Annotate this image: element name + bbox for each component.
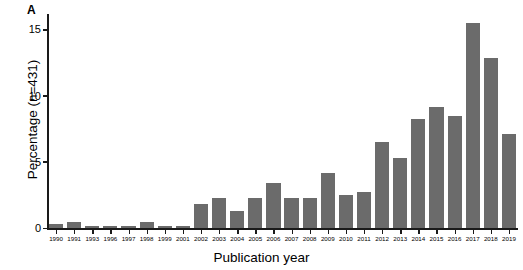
bar — [429, 107, 443, 229]
bar — [49, 224, 63, 229]
x-tick-mark — [455, 230, 456, 234]
bar — [266, 183, 280, 229]
bar — [85, 226, 99, 229]
x-tick-label: 2016 — [448, 236, 462, 242]
x-tick-mark — [219, 230, 220, 234]
x-tick-mark — [364, 230, 365, 234]
bar — [284, 198, 298, 228]
x-tick-label: 1996 — [104, 236, 118, 242]
x-tick-label: 2017 — [466, 236, 480, 242]
x-tick-label: 2001 — [176, 236, 190, 242]
x-tick-mark — [346, 230, 347, 234]
bar — [67, 222, 81, 228]
y-tick-label: 10 — [15, 91, 41, 102]
x-tick-mark — [92, 230, 93, 234]
y-tick-label: 0 — [15, 223, 41, 234]
x-tick-mark — [237, 230, 238, 234]
bar — [375, 142, 389, 228]
bar — [248, 198, 262, 228]
x-tick-mark — [129, 230, 130, 234]
x-tick-label: 2010 — [339, 236, 353, 242]
bar — [230, 211, 244, 229]
x-axis-title: Publication year — [0, 250, 523, 265]
x-tick-label: 1991 — [67, 236, 81, 242]
bar — [212, 198, 226, 228]
x-tick-label: 2018 — [484, 236, 498, 242]
x-tick-label: 1990 — [49, 236, 63, 242]
x-tick-label: 2004 — [230, 236, 244, 242]
x-tick-mark — [436, 230, 437, 234]
x-tick-label: 2015 — [430, 236, 444, 242]
x-tick-mark — [255, 230, 256, 234]
x-tick-mark — [147, 230, 148, 234]
x-tick-label: 1993 — [85, 236, 99, 242]
x-tick-label: 2006 — [267, 236, 281, 242]
x-tick-label: 2014 — [411, 236, 425, 242]
x-tick-mark — [292, 230, 293, 234]
x-tick-label: 2002 — [194, 236, 208, 242]
x-tick-label: 2012 — [375, 236, 389, 242]
bar — [502, 134, 516, 228]
bar — [411, 119, 425, 229]
x-tick-mark — [400, 230, 401, 234]
x-tick-mark — [74, 230, 75, 234]
y-axis-title: Percentage (n=431) — [25, 15, 40, 225]
bar — [484, 58, 498, 229]
x-tick-mark — [491, 230, 492, 234]
x-tick-label: 2008 — [303, 236, 317, 242]
x-tick-label: 2011 — [357, 236, 370, 242]
x-tick-label: 1997 — [122, 236, 136, 242]
bar — [194, 204, 208, 228]
x-tick-mark — [201, 230, 202, 234]
x-tick-label: 2005 — [248, 236, 262, 242]
bar — [393, 158, 407, 228]
bar — [303, 198, 317, 228]
x-tick-label: 2003 — [212, 236, 226, 242]
x-tick-mark — [110, 230, 111, 234]
bar — [466, 23, 480, 228]
x-tick-mark — [183, 230, 184, 234]
x-tick-mark — [509, 230, 510, 234]
x-tick-mark — [418, 230, 419, 234]
bar — [339, 195, 353, 228]
x-tick-label: 2007 — [285, 236, 299, 242]
bar — [103, 226, 117, 229]
bar — [121, 226, 135, 229]
figure-panel-a: A Percentage (n=431) 051015 199019911993… — [0, 0, 523, 270]
x-tick-mark — [310, 230, 311, 234]
x-axis-spine — [47, 228, 518, 230]
x-tick-label: 2013 — [393, 236, 407, 242]
x-tick-mark — [56, 230, 57, 234]
x-tick-label: 1998 — [140, 236, 154, 242]
x-tick-mark — [473, 230, 474, 234]
x-tick-label: 2019 — [502, 236, 516, 242]
x-tick-mark — [382, 230, 383, 234]
bar — [321, 173, 335, 228]
bar-series — [47, 14, 518, 228]
bar — [357, 192, 371, 228]
y-tick-label: 5 — [15, 157, 41, 168]
x-tick-mark — [165, 230, 166, 234]
x-tick-label: 1999 — [158, 236, 172, 242]
bar — [448, 116, 462, 228]
bar — [176, 226, 190, 229]
x-tick-label: 2009 — [321, 236, 335, 242]
x-tick-mark — [328, 230, 329, 234]
bar — [140, 222, 154, 228]
x-tick-mark — [273, 230, 274, 234]
bar — [158, 226, 172, 229]
y-tick-label: 15 — [15, 24, 41, 35]
